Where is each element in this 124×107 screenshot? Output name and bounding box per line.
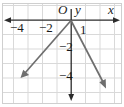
origin-label: O bbox=[58, 3, 67, 16]
x-axis-label: x bbox=[108, 3, 114, 16]
y-tick-label-minus2: −2 bbox=[59, 40, 73, 53]
x-tick-label-minus4: −4 bbox=[10, 21, 24, 34]
y-axis-label: y bbox=[75, 3, 81, 16]
y-tick-label-minus4: −4 bbox=[59, 69, 73, 82]
x-tick-label-1: 1 bbox=[80, 23, 87, 36]
coordinate-graph-figure: O y x −4 −2 1 −2 −4 bbox=[0, 0, 124, 107]
x-tick-label-minus2: −2 bbox=[39, 21, 53, 34]
